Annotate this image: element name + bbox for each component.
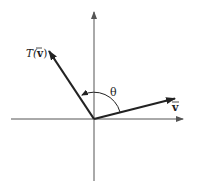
Tv-label: T(v) (26, 47, 47, 59)
theta-label: θ (110, 86, 117, 99)
vector-Tv (49, 51, 94, 119)
vector-v (94, 99, 175, 120)
svg-text:T(v): T(v) (26, 47, 47, 59)
rotation-diagram: θ v T(v) (0, 0, 197, 188)
v-label: v (171, 101, 179, 114)
